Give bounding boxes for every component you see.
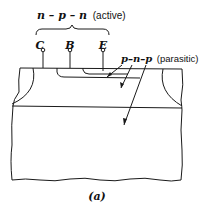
active-note-text: (active) xyxy=(93,10,126,21)
epi-substrate-boundary xyxy=(12,106,182,108)
base-label: B xyxy=(64,39,74,52)
active-sequence-text: n – p – n xyxy=(37,9,87,22)
wafer-bottom-edge xyxy=(12,178,181,181)
bjt-cross-section-diagram: n – p – n (active) C B E p–n–p (parasiti… xyxy=(0,0,207,210)
active-transistor-label: n – p – n (active) xyxy=(37,9,126,22)
wafer-top-surface xyxy=(20,68,182,69)
parasitic-arrow-emitter xyxy=(107,65,122,77)
base-diffusion-region xyxy=(57,68,140,78)
collector-label: C xyxy=(36,39,45,52)
emitter-terminal xyxy=(101,48,105,71)
parasitic-transistor-label: p–n–p (parasitic) xyxy=(121,53,198,64)
wafer-right-edge xyxy=(181,69,183,180)
emitter-label: E xyxy=(98,39,108,52)
parasitic-sequence-text: p–n–p xyxy=(121,53,152,64)
wafer-left-edge xyxy=(11,68,20,180)
figure-caption: (a) xyxy=(88,190,106,203)
right-isolation-diffusion xyxy=(162,69,182,106)
grouping-brace xyxy=(36,25,109,35)
parasitic-note-text: (parasitic) xyxy=(157,53,199,64)
